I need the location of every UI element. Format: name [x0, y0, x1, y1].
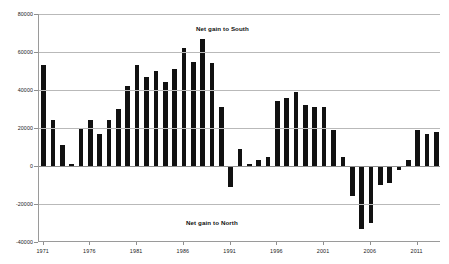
gridline [39, 14, 440, 15]
y-axis-tick-mark [34, 242, 38, 243]
x-axis-tick-mark [323, 242, 324, 245]
plot-area [38, 14, 440, 242]
y-axis-tick-mark [34, 166, 38, 167]
x-axis-tick-label: 2006 [364, 248, 377, 254]
bar [210, 63, 215, 166]
x-axis-tick-label: 1971 [36, 248, 49, 254]
bar [154, 71, 159, 166]
y-axis-tick-mark [34, 52, 38, 53]
x-axis-tick-label: 1996 [270, 248, 283, 254]
bar [369, 166, 374, 223]
bar [182, 48, 187, 166]
bar [350, 166, 355, 196]
bar [163, 82, 168, 166]
x-axis-tick-mark [276, 242, 277, 245]
bar [200, 39, 205, 166]
x-axis-tick-label: 2011 [411, 248, 423, 254]
x-axis-tick-mark [136, 242, 137, 245]
bar [387, 166, 392, 183]
bar [415, 130, 420, 166]
annotation-net-gain-south: Net gain to South [196, 25, 249, 32]
gridline [39, 204, 440, 205]
y-axis-tick-label: -20000 [16, 201, 33, 207]
bar [312, 107, 317, 166]
y-axis-tick-label: 60000 [18, 49, 33, 55]
bar [116, 109, 121, 166]
x-axis-tick-mark [183, 242, 184, 245]
net-migration-bar-chart: 800006000040000200000-20000-40000 197119… [0, 0, 449, 264]
y-axis-tick-mark [34, 128, 38, 129]
bar [172, 69, 177, 166]
y-axis-tick-label: 80000 [18, 11, 33, 17]
bar [219, 107, 224, 166]
y-axis-tick-label: 0 [30, 163, 33, 169]
y-axis-tick-mark [34, 90, 38, 91]
bar [275, 101, 280, 166]
x-axis-tick-mark [43, 242, 44, 245]
bar [434, 132, 439, 166]
x-axis-tick-mark [370, 242, 371, 245]
x-axis-tick-label: 1976 [83, 248, 96, 254]
bar [60, 145, 65, 166]
bar [125, 86, 130, 166]
bar [228, 166, 233, 187]
gridline [39, 90, 440, 91]
bar [135, 65, 140, 166]
x-axis-tick-mark [230, 242, 231, 245]
bar [191, 62, 196, 167]
x-axis-tick-label: 1991 [223, 248, 236, 254]
bar [359, 166, 364, 229]
bar [266, 157, 271, 167]
y-axis-tick-mark [34, 204, 38, 205]
x-axis-tick-mark [89, 242, 90, 245]
y-axis-tick-label: -40000 [16, 239, 33, 245]
bar [341, 157, 346, 167]
annotation-net-gain-north: Net gain to North [186, 219, 238, 226]
x-axis-tick-label: 2001 [317, 248, 330, 254]
bar [79, 128, 84, 166]
zero-line [39, 166, 440, 167]
x-axis-tick-mark [417, 242, 418, 245]
bar [322, 107, 327, 166]
bar [425, 134, 430, 166]
bar [331, 130, 336, 166]
gridline [39, 128, 440, 129]
gridline [39, 52, 440, 53]
bar [378, 166, 383, 185]
y-axis-tick-label: 20000 [18, 125, 33, 131]
x-axis-tick-label: 1986 [177, 248, 190, 254]
bar [97, 134, 102, 166]
bar [284, 98, 289, 166]
x-axis-tick-label: 1981 [130, 248, 143, 254]
y-axis-tick-label: 40000 [18, 87, 33, 93]
bar [303, 105, 308, 166]
bar [238, 149, 243, 166]
y-axis-tick-mark [34, 14, 38, 15]
bar [41, 65, 46, 166]
